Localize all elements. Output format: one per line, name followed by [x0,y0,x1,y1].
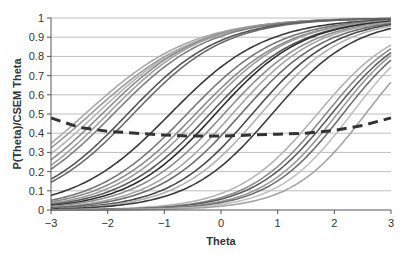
y-tick-labels: 00.10.20.30.40.50.60.70.80.91 [29,12,44,216]
x-axis-title: Theta [206,235,236,247]
y-tick-label: 0.1 [29,185,44,197]
x-tick-label: −1 [158,217,171,229]
y-tick-label: 0.3 [29,146,44,158]
y-tick-label: 0.9 [29,31,44,43]
y-tick-label: 0.8 [29,50,44,62]
x-tick-label: −2 [101,217,114,229]
x-tick-label: 0 [218,217,224,229]
x-tick-label: 1 [275,217,281,229]
x-tick-label: −3 [45,217,58,229]
x-tick-label: 2 [331,217,337,229]
gridlines [47,18,391,210]
y-tick-label: 0.2 [29,166,44,178]
y-tick-label: 0 [38,204,44,216]
x-tick-label: 3 [388,217,394,229]
icc-line [51,24,391,208]
y-tick-label: 0.4 [29,127,44,139]
icc-chart: 00.10.20.30.40.50.60.70.80.91 −3−2−10123… [0,0,408,255]
icc-line [51,21,391,204]
y-axis-title: P(Theta)/CSEM Theta [11,58,23,170]
y-tick-label: 0.7 [29,70,44,82]
y-tick-label: 0.5 [29,108,44,120]
x-tick-labels: −3−2−10123 [45,217,394,229]
y-tick-label: 1 [38,12,44,24]
y-tick-label: 0.6 [29,89,44,101]
